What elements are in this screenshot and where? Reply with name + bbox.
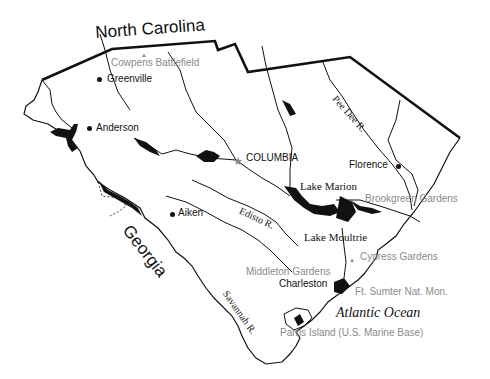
anderson-dot <box>87 126 92 131</box>
parris-island-label: Parris Island (U.S. Marine Base) <box>280 328 423 338</box>
aiken-label: Aiken <box>178 208 203 218</box>
florence-label: Florence <box>349 160 388 170</box>
greenville-label: Greenville <box>107 74 152 84</box>
florence-dot <box>396 164 401 169</box>
columbia-label: COLUMBIA <box>246 153 298 163</box>
capital-star-icon: ★ <box>233 155 243 167</box>
cowpens-label: Cowpens Battlefield <box>111 58 199 68</box>
ft-sumter-label: Ft. Sumter Nat. Mon. <box>355 287 448 297</box>
greenville-dot <box>97 77 102 82</box>
charleston-label: Charleston <box>279 279 327 289</box>
middleton-label: Middleton Gardens <box>246 267 331 277</box>
anderson-label: Anderson <box>96 123 139 133</box>
aiken-dot <box>170 212 175 217</box>
atlantic-ocean-label: Atlantic Ocean <box>336 306 420 320</box>
cypress-marker-icon: ▲ <box>349 257 355 263</box>
lake-marion-label: Lake Marion <box>300 181 357 192</box>
lake-moultrie-label: Lake Moultrie <box>304 232 367 243</box>
brookgreen-label: Brookgreen Gardens <box>365 194 458 204</box>
cypress-label: Cypress Gardens <box>360 252 438 262</box>
